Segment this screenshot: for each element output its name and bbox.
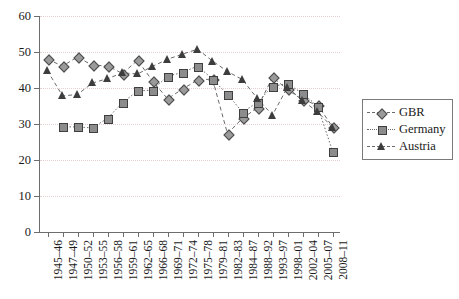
x-tick-19 — [333, 232, 334, 237]
series-lines — [40, 16, 340, 232]
data-point-germany-5 — [119, 99, 128, 108]
data-point-germany-12 — [224, 91, 233, 100]
x-tick-label-5: 1959–61 — [128, 240, 140, 280]
data-point-austria-14 — [253, 94, 261, 102]
x-tick-label-11: 1979–81 — [218, 240, 230, 280]
data-point-austria-9 — [178, 50, 186, 58]
data-point-austria-16 — [283, 83, 291, 91]
x-tick-9 — [183, 232, 184, 237]
y-tick-label-0: 0 — [0, 226, 31, 238]
data-point-germany-8 — [164, 73, 173, 82]
x-tick-8 — [168, 232, 169, 237]
y-tick-label-30: 30 — [0, 118, 31, 130]
data-point-germany-10 — [194, 63, 203, 72]
x-tick-label-12: 1982–83 — [233, 240, 245, 280]
x-tick-1 — [63, 232, 64, 237]
x-tick-label-14: 1988–92 — [263, 240, 275, 280]
data-point-austria-11 — [208, 57, 216, 65]
data-point-germany-6 — [134, 87, 143, 96]
x-tick-13 — [243, 232, 244, 237]
data-point-austria-3 — [88, 78, 96, 86]
x-tick-label-18: 2005–07 — [323, 240, 335, 280]
gbr-diamond-icon — [367, 107, 395, 119]
x-tick-11 — [213, 232, 214, 237]
legend-item-germany[interactable]: Germany — [367, 121, 446, 138]
y-tick-label-40: 40 — [0, 82, 31, 94]
x-tick-2 — [78, 232, 79, 237]
x-tick-label-16: 1998–01 — [293, 240, 305, 280]
data-point-germany-7 — [149, 87, 158, 96]
x-tick-0 — [48, 232, 49, 237]
x-tick-label-3: 1953–55 — [98, 240, 110, 280]
y-tick-label-10: 10 — [0, 190, 31, 202]
chart-figure: 0102030405060 1945–461947–491950–521953–… — [0, 0, 459, 299]
data-point-germany-11 — [209, 76, 218, 85]
data-point-austria-2 — [73, 90, 81, 98]
data-point-austria-5 — [118, 68, 126, 76]
x-tick-label-7: 1966–68 — [158, 240, 170, 280]
x-tick-label-17: 2002–04 — [308, 240, 320, 280]
gridline-0 — [40, 232, 340, 233]
x-tick-5 — [123, 232, 124, 237]
data-point-germany-9 — [179, 69, 188, 78]
legend-item-gbr[interactable]: GBR — [367, 104, 446, 121]
data-point-austria-7 — [148, 62, 156, 70]
legend-label-germany: Germany — [399, 123, 446, 136]
x-tick-label-6: 1962–65 — [143, 240, 155, 280]
x-tick-6 — [138, 232, 139, 237]
data-point-germany-3 — [89, 124, 98, 133]
x-tick-14 — [258, 232, 259, 237]
data-point-austria-18 — [313, 107, 321, 115]
x-tick-label-8: 1969–71 — [173, 240, 185, 280]
x-tick-16 — [288, 232, 289, 237]
legend-label-gbr: GBR — [399, 106, 425, 119]
x-tick-label-19: 2008–11 — [338, 240, 350, 280]
legend-item-austria[interactable]: Austria — [367, 138, 446, 155]
x-tick-4 — [108, 232, 109, 237]
data-point-austria-6 — [133, 69, 141, 77]
x-tick-15 — [273, 232, 274, 237]
x-tick-7 — [153, 232, 154, 237]
data-point-germany-2 — [74, 123, 83, 132]
data-point-austria-0 — [43, 66, 51, 74]
data-point-austria-8 — [163, 55, 171, 63]
x-tick-10 — [198, 232, 199, 237]
data-point-germany-19 — [329, 148, 338, 157]
x-tick-label-1: 1947–49 — [68, 240, 80, 280]
plot-area — [40, 16, 340, 232]
x-tick-3 — [93, 232, 94, 237]
y-tick-label-60: 60 — [0, 10, 31, 22]
data-point-austria-15 — [268, 111, 276, 119]
x-tick-label-15: 1993–97 — [278, 240, 290, 280]
x-tick-label-2: 1950–52 — [83, 240, 95, 280]
data-point-germany-1 — [59, 123, 68, 132]
data-point-austria-13 — [238, 75, 246, 83]
x-tick-label-10: 1975–78 — [203, 240, 215, 280]
x-tick-18 — [318, 232, 319, 237]
x-tick-label-4: 1956–58 — [113, 240, 125, 280]
chart-legend: GBR Germany Austria — [362, 99, 453, 160]
data-point-austria-17 — [298, 96, 306, 104]
data-point-austria-12 — [223, 67, 231, 75]
data-point-austria-19 — [328, 123, 336, 131]
austria-triangle-icon — [367, 141, 395, 153]
x-tick-12 — [228, 232, 229, 237]
x-tick-label-0: 1945–46 — [53, 240, 65, 280]
y-tick-label-20: 20 — [0, 154, 31, 166]
data-point-austria-10 — [193, 45, 201, 53]
data-point-germany-13 — [239, 109, 248, 118]
germany-square-icon — [367, 124, 395, 136]
x-tick-17 — [303, 232, 304, 237]
data-point-germany-4 — [104, 115, 113, 124]
legend-label-austria: Austria — [399, 140, 436, 153]
x-tick-label-13: 1984–87 — [248, 240, 260, 280]
y-tick-label-50: 50 — [0, 46, 31, 58]
data-point-austria-4 — [103, 74, 111, 82]
x-tick-label-9: 1972–74 — [188, 240, 200, 280]
data-point-germany-15 — [269, 83, 278, 92]
data-point-austria-1 — [58, 91, 66, 99]
